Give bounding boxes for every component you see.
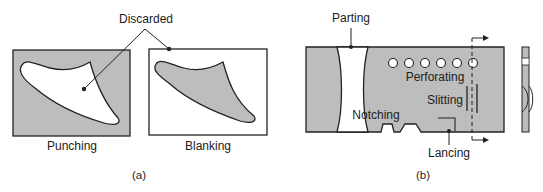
cross-section-view	[522, 47, 533, 132]
parting-label: Parting	[332, 11, 370, 25]
section-arrow-bottom	[483, 137, 489, 143]
notching-label: Notching	[352, 108, 399, 122]
punching-label: Punching	[47, 139, 97, 153]
sheet-metal-operations-diagram: Discarded Punching Blanking (a) Parting	[0, 0, 543, 192]
discarded-label: Discarded	[119, 12, 173, 26]
lancing-label: Lancing	[428, 146, 470, 160]
blanking-label: Blanking	[185, 139, 231, 153]
caption-b: (b)	[416, 169, 430, 181]
punching-panel	[13, 50, 130, 136]
perforating-label: Perforating	[406, 70, 465, 84]
blanking-panel	[149, 47, 267, 135]
strip-panel	[306, 35, 504, 143]
caption-a: (a)	[132, 169, 146, 181]
slitting-label: Slitting	[427, 93, 463, 107]
section-arrow-top	[483, 35, 489, 41]
